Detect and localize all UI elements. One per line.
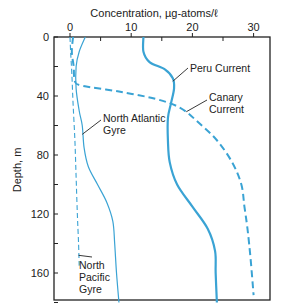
annotation-leader bbox=[79, 255, 92, 257]
x-tick-label: 10 bbox=[125, 21, 137, 33]
annotation-label: North AtlanticGyre bbox=[103, 112, 165, 136]
x-tick-label: 30 bbox=[247, 21, 259, 33]
y-tick-label: 160 bbox=[31, 267, 49, 279]
series-line-canary-current bbox=[72, 37, 254, 295]
annotation-leader bbox=[173, 68, 188, 81]
y-tick-label: 0 bbox=[43, 31, 49, 43]
y-tick-label: 40 bbox=[37, 90, 49, 102]
y-tick-label: 120 bbox=[31, 208, 49, 220]
depth-profile-chart: Concentration, µg-atoms/ℓ Depth, m 01020… bbox=[0, 0, 290, 306]
x-axis-title: Concentration, µg-atoms/ℓ bbox=[90, 7, 218, 19]
annotation-label: CanaryCurrent bbox=[209, 91, 244, 115]
annotation-label: Peru Current bbox=[190, 62, 250, 74]
annotation-leader bbox=[186, 100, 207, 112]
x-tick-label: 0 bbox=[67, 21, 73, 33]
annotation-leader bbox=[82, 120, 101, 134]
x-axis-ticks: 0102030 bbox=[67, 21, 260, 41]
annotation-label: NorthPacificGyre bbox=[79, 259, 110, 295]
series-line-peru-current bbox=[143, 37, 217, 303]
annotations: Peru CurrentCanaryCurrentNorth AtlanticG… bbox=[79, 62, 251, 295]
x-tick-label: 20 bbox=[186, 21, 198, 33]
y-axis-title: Depth, m bbox=[11, 148, 23, 193]
y-tick-label: 80 bbox=[37, 149, 49, 161]
